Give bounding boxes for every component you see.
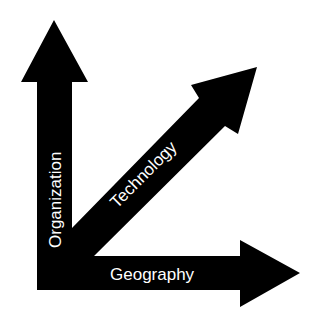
axes-diagram: Organization Technology Geography — [0, 0, 319, 319]
organization-label: Organization — [46, 152, 65, 248]
diagram-canvas: Organization Technology Geography — [0, 0, 319, 319]
geography-label: Geography — [110, 265, 195, 284]
